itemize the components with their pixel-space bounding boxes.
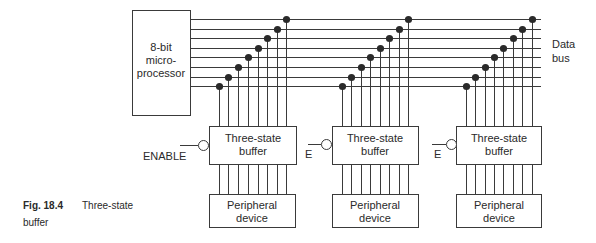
junction-dot bbox=[216, 83, 223, 90]
bus-taps-3 bbox=[463, 16, 536, 194]
junction-dot bbox=[264, 35, 271, 42]
junction-dot bbox=[348, 74, 355, 81]
three-state-buffer-diagram: 8-bit micro- processor Data bus bbox=[0, 0, 596, 243]
enable-label: ENABLE bbox=[143, 150, 186, 162]
buffer-label-line1: Three-state bbox=[471, 132, 527, 144]
junction-dot bbox=[377, 45, 384, 52]
device-label-line2: device bbox=[359, 212, 391, 224]
inverter-bubble-icon bbox=[199, 141, 209, 151]
device-label-line2: device bbox=[483, 212, 515, 224]
junction-dot bbox=[283, 16, 290, 23]
buffer-label-line2: buffer bbox=[361, 145, 389, 157]
unit-2: Three-state buffer Peripheral device E bbox=[305, 16, 419, 228]
junction-dot bbox=[358, 64, 365, 71]
buffer-label-line1: Three-state bbox=[347, 132, 403, 144]
bus-taps-2 bbox=[339, 16, 412, 194]
junction-dot bbox=[255, 45, 262, 52]
microprocessor-block: 8-bit micro- processor bbox=[133, 11, 191, 116]
junction-dot bbox=[463, 83, 470, 90]
device-label-line1: Peripheral bbox=[474, 199, 524, 211]
figure-number: Fig. 18.4 bbox=[23, 200, 63, 211]
junction-dot bbox=[245, 54, 252, 61]
unit-3: Three-state buffer Peripheral device E bbox=[432, 16, 542, 228]
figure-caption: Fig. 18.4 Three-state buffer bbox=[23, 200, 134, 228]
junction-dot bbox=[405, 16, 412, 23]
bus-taps-1 bbox=[216, 16, 290, 194]
microprocessor-label-line2: micro- bbox=[146, 54, 177, 66]
enable-label: E bbox=[305, 148, 312, 160]
junction-dot bbox=[482, 64, 489, 71]
junction-dot bbox=[500, 45, 507, 52]
device-label-line1: Peripheral bbox=[350, 199, 400, 211]
device-label-line1: Peripheral bbox=[227, 199, 277, 211]
data-bus-label-line2: bus bbox=[552, 52, 570, 64]
junction-dot bbox=[386, 35, 393, 42]
junction-dot bbox=[225, 74, 232, 81]
buffer-label-line1: Three-state bbox=[225, 132, 281, 144]
junction-dot bbox=[274, 26, 281, 33]
inverter-bubble-icon bbox=[447, 140, 457, 150]
junction-dot bbox=[472, 74, 479, 81]
data-bus: Data bus bbox=[190, 20, 576, 87]
junction-dot bbox=[235, 64, 242, 71]
junction-dot bbox=[339, 83, 346, 90]
figure-title-line2: buffer bbox=[23, 217, 49, 228]
junction-dot bbox=[529, 16, 536, 23]
device-label-line2: device bbox=[236, 212, 268, 224]
junction-dot bbox=[510, 35, 517, 42]
enable-label: E bbox=[434, 148, 441, 160]
junction-dot bbox=[396, 26, 403, 33]
data-bus-label-line1: Data bbox=[552, 38, 576, 50]
junction-dot bbox=[491, 54, 498, 61]
inverter-bubble-icon bbox=[322, 140, 332, 150]
figure-title-line1: Three-state bbox=[82, 200, 134, 211]
microprocessor-label-line1: 8-bit bbox=[150, 41, 171, 53]
microprocessor-label-line3: processor bbox=[137, 67, 186, 79]
buffer-label-line2: buffer bbox=[239, 145, 267, 157]
junction-dot bbox=[367, 54, 374, 61]
junction-dot bbox=[519, 26, 526, 33]
buffer-label-line2: buffer bbox=[485, 145, 513, 157]
